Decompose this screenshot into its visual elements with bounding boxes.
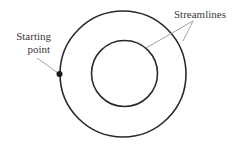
starting-point-leader	[37, 58, 58, 73]
streamlines-label: Streamlines	[174, 8, 226, 20]
starting-point-label-line2: point	[27, 43, 50, 55]
starting-point-label-line1: Starting	[16, 30, 51, 42]
starting-point-dot	[57, 71, 63, 77]
streamlines-diagram: Starting point Streamlines	[0, 0, 232, 153]
inner-streamline-circle	[92, 41, 158, 107]
outer-streamline-circle	[60, 11, 186, 137]
